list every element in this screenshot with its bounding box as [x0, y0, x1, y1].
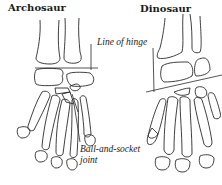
dino-metacarpal-4: [194, 97, 212, 147]
dino-metacarpal-5: [208, 93, 221, 119]
carpal-bone-2: [67, 72, 94, 86]
phalanx-2: [35, 151, 47, 162]
metacarpal-1: [28, 91, 50, 131]
metacarpal-5: [80, 96, 91, 137]
dino-carpal-bone-3: [174, 88, 190, 95]
phalanx-4: [67, 159, 78, 170]
radius-bone: [36, 20, 60, 64]
ball-joint: [70, 84, 80, 91]
carpal-bone-3: [55, 88, 70, 94]
dino-phalanx-4: [199, 155, 214, 168]
wrist-diagram: [0, 0, 222, 185]
ulna-bone: [64, 18, 81, 63]
dino-carpal-bone-4: [195, 87, 207, 98]
dino-radius-bone: [157, 14, 183, 59]
phalanx-1: [17, 127, 30, 138]
dino-metacarpal-3: [180, 97, 192, 157]
dino-phalanx-3: [175, 159, 190, 172]
dino-carpal-bone-2: [195, 58, 211, 76]
dinosaur-skeleton: [146, 14, 222, 172]
dino-hinge-pointer: [153, 48, 154, 92]
dino-metacarpal-2: [164, 97, 178, 155]
carpal-bone-1: [35, 68, 64, 85]
metacarpal-2: [42, 95, 60, 150]
archosaur-skeleton: [17, 18, 98, 170]
dino-metacarpal-1: [148, 99, 166, 138]
phalanx-3: [51, 157, 62, 168]
dino-carpal-bone-1: [161, 62, 193, 82]
dino-ulna-bone: [190, 14, 201, 53]
dino-phalanx-2: [155, 157, 170, 170]
